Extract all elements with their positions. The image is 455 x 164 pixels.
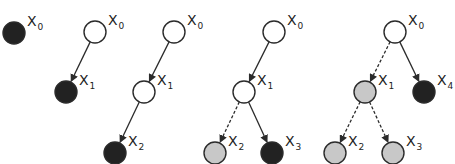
node-t3-x2-filled	[104, 142, 126, 164]
node-subscript: 2	[239, 142, 245, 152]
node-subscript: 1	[90, 81, 96, 91]
node-label: X3	[285, 133, 301, 152]
node-label: X0	[108, 12, 125, 31]
node-subscript: 0	[298, 21, 304, 31]
node-label: X4	[437, 72, 454, 91]
node-subscript: 2	[359, 142, 365, 152]
node-label: X0	[187, 12, 204, 31]
node-subscript: 1	[268, 81, 274, 91]
node-subscript: 1	[168, 81, 174, 91]
node-label: X2	[128, 133, 144, 152]
node-subscript: 0	[119, 21, 125, 31]
node-t4-x3-filled	[261, 142, 283, 164]
node-t3-x0-empty	[163, 21, 185, 43]
edge-x1-to-x3-dashed	[370, 102, 388, 142]
node-t2-x0-empty	[84, 21, 106, 43]
node-label: X1	[157, 72, 173, 91]
node-label: X0	[27, 13, 44, 32]
node-label: X1	[257, 72, 273, 91]
node-t5-x2-partial	[324, 142, 346, 164]
node-label: X2	[348, 133, 364, 152]
node-label: X3	[406, 133, 422, 152]
node-t4-x0-empty	[263, 21, 285, 43]
node-label: X1	[378, 72, 394, 91]
node-t5-x4-filled	[413, 81, 435, 103]
nodes-layer	[3, 21, 435, 164]
node-t3-x1-empty	[133, 81, 155, 103]
node-t5-x3-partial	[382, 142, 404, 164]
node-t1-x0-filled	[3, 22, 25, 44]
node-label: X0	[408, 12, 425, 31]
node-subscript: 1	[389, 81, 395, 91]
node-subscript: 0	[419, 21, 425, 31]
node-subscript: 0	[198, 21, 204, 31]
node-subscript: 2	[139, 142, 145, 152]
node-t5-x0-empty	[384, 21, 406, 43]
node-t5-x1-partial	[354, 81, 376, 103]
edge-x1-to-x3-solid	[249, 102, 267, 142]
node-label: X1	[79, 72, 95, 91]
node-t4-x1-empty	[233, 81, 255, 103]
tree-t5	[340, 42, 418, 142]
tree-sequence-diagram: X0X0X1X0X1X2X0X1X2X3X0X1X4X2X3	[0, 0, 455, 164]
node-subscript: 0	[38, 22, 44, 32]
edge-x0-to-x4-solid	[400, 42, 419, 81]
node-label: X2	[228, 133, 244, 152]
node-label: X0	[287, 12, 304, 31]
node-t4-x2-partial	[204, 142, 226, 164]
node-subscript: 3	[417, 142, 423, 152]
node-subscript: 3	[296, 142, 302, 152]
node-t2-x1-filled	[55, 81, 77, 103]
node-subscript: 4	[448, 81, 454, 91]
